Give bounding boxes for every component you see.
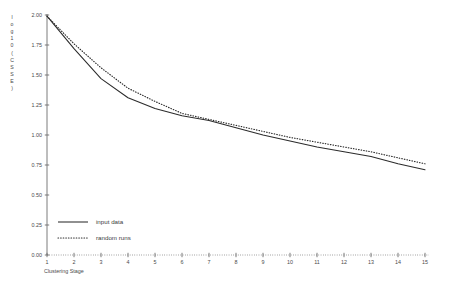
y-tick-label: 1.75 — [32, 42, 43, 48]
y-axis: 0.000.250.500.751.001.251.501.752.00 — [32, 12, 50, 258]
x-axis: 123456789101112131415 — [46, 253, 430, 265]
x-tick-label: 14 — [395, 259, 401, 265]
x-tick-label: 7 — [208, 259, 211, 265]
line-chart: 0.000.250.500.751.001.251.501.752.00 123… — [0, 0, 454, 290]
y-axis-title-char: 0 — [11, 42, 14, 48]
x-tick-label: 5 — [154, 259, 157, 265]
y-tick-label: 0.25 — [32, 222, 43, 228]
x-tick-label: 2 — [73, 259, 76, 265]
y-axis-title-char: ( — [11, 50, 13, 56]
y-tick-label: 1.25 — [32, 102, 43, 108]
x-tick-label: 15 — [422, 259, 428, 265]
y-axis-title-char: g — [11, 28, 14, 34]
x-tick-label: 4 — [127, 259, 130, 265]
x-tick-label: 12 — [341, 259, 347, 265]
series-line-input-data — [47, 16, 425, 170]
y-tick-label: 1.00 — [32, 132, 43, 138]
y-axis-title-char: S — [10, 71, 14, 77]
x-tick-label: 11 — [314, 259, 320, 265]
x-axis-title: Clustering Stage — [44, 268, 84, 274]
y-axis-title-char: ) — [11, 85, 13, 91]
y-axis-title: log10(CSSE) — [10, 14, 14, 91]
y-axis-title-char: S — [10, 64, 14, 70]
y-tick-label: 0.00 — [32, 252, 43, 258]
legend-label-random-runs: random runs — [96, 234, 131, 241]
y-tick-label: 2.00 — [32, 12, 43, 18]
x-tick-label: 9 — [262, 259, 265, 265]
series-line-random-runs — [47, 16, 425, 164]
x-tick-label: 3 — [100, 259, 103, 265]
y-axis-title-char: o — [11, 21, 14, 27]
y-tick-label: 1.50 — [32, 72, 43, 78]
x-tick-label: 6 — [181, 259, 184, 265]
x-tick-label: 1 — [46, 259, 49, 265]
y-axis-title-char: 1 — [11, 35, 14, 41]
x-tick-label: 10 — [287, 259, 293, 265]
y-axis-title-char: l — [11, 14, 12, 20]
y-axis-title-char: C — [10, 57, 14, 63]
y-tick-label: 0.75 — [32, 162, 43, 168]
x-axis-title-label: Clustering Stage — [44, 268, 84, 274]
y-axis-title-char: E — [10, 78, 14, 84]
data-series-group — [47, 16, 425, 170]
legend-label-input-data: input data — [96, 218, 124, 225]
x-tick-label: 13 — [368, 259, 374, 265]
x-tick-label: 8 — [235, 259, 238, 265]
chart-legend: input datarandom runs — [58, 218, 131, 241]
y-tick-label: 0.50 — [32, 192, 43, 198]
chart-container: 0.000.250.500.751.001.251.501.752.00 123… — [0, 0, 454, 290]
